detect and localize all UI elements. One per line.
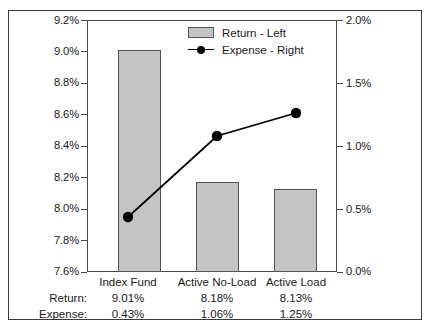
table-cell-return-active-no-load: 8.18% xyxy=(201,292,234,304)
bar-active-no-load[interactable] xyxy=(196,182,239,272)
left-axis-tick-label-9-2: 9.2% xyxy=(33,14,79,26)
right-axis-tick-label-0-0: 0.0% xyxy=(346,265,371,277)
bar-index-fund[interactable] xyxy=(118,50,161,272)
legend-label-return: Return - Left xyxy=(222,27,286,39)
right-axis-tick-mark-1-5 xyxy=(337,83,343,84)
table-cell-expense-index-fund: 0.43% xyxy=(112,308,145,320)
right-axis-tick-mark-2-0 xyxy=(337,20,343,21)
right-axis-tick-label-2-0: 2.0% xyxy=(346,14,371,26)
left-axis-tick-label-8-2: 8.2% xyxy=(33,171,79,183)
right-axis-tick-mark-0-0 xyxy=(337,272,343,273)
right-axis-tick-label-1-5: 1.5% xyxy=(346,77,371,89)
right-axis-tick-label-0-5: 0.5% xyxy=(346,203,371,215)
left-axis-tick-label-9-0: 9.0% xyxy=(33,45,79,57)
legend-item-return[interactable]: Return - Left xyxy=(188,24,304,41)
left-axis-tick-label-8-0: 8.0% xyxy=(33,202,79,214)
chart-legend: Return - Left Expense - Right xyxy=(188,24,304,58)
right-axis-tick-mark-0-5 xyxy=(337,209,343,210)
table-row-label-return: Return: xyxy=(7,292,87,304)
category-label-index-fund: Index Fund xyxy=(99,276,157,288)
left-axis-tick-mark-7-6 xyxy=(81,272,87,273)
category-label-active-no-load: Active No-Load xyxy=(178,276,257,288)
table-cell-expense-active-no-load: 1.06% xyxy=(201,308,234,320)
legend-swatch-icon xyxy=(188,27,214,38)
legend-label-expense: Expense - Right xyxy=(222,44,304,56)
legend-item-expense[interactable]: Expense - Right xyxy=(188,41,304,58)
left-axis-tick-label-7-6: 7.6% xyxy=(33,265,79,277)
table-row-label-expense: Expense: xyxy=(7,308,87,320)
table-cell-expense-active-load: 1.25% xyxy=(280,308,313,320)
table-cell-return-active-load: 8.13% xyxy=(280,292,313,304)
right-axis-tick-label-1-0: 1.0% xyxy=(346,140,371,152)
category-label-active-load: Active Load xyxy=(266,276,326,288)
right-axis-tick-mark-1-0 xyxy=(337,146,343,147)
bar-active-load[interactable] xyxy=(274,189,317,272)
table-cell-return-index-fund: 9.01% xyxy=(112,292,145,304)
chart-figure: 9.2% 9.0% 8.8% 8.6% 8.4% 8.2% 8.0% 7.8% … xyxy=(0,0,432,332)
left-axis-tick-label-7-8: 7.8% xyxy=(33,234,79,246)
legend-line-dot-icon xyxy=(188,44,214,55)
left-axis-tick-label-8-8: 8.8% xyxy=(33,76,79,88)
left-axis-tick-label-8-4: 8.4% xyxy=(33,139,79,151)
left-axis-tick-label-8-6: 8.6% xyxy=(33,108,79,120)
